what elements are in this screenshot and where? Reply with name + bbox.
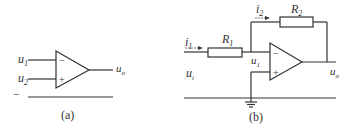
resistor-r1-label: R1 (221, 32, 233, 48)
ground-icon (245, 102, 257, 107)
panel-b: i1 R1 R2 i2 u1 − + (184, 2, 340, 124)
current-i1-label: i1 (185, 35, 192, 51)
opamp-b-plus-pin: + (273, 67, 279, 78)
panel-a: u1 u2 − + uo − (a) (13, 51, 126, 122)
current-i2-label: i2 (256, 2, 263, 18)
current-i2-arrow-icon (265, 16, 270, 20)
output-b-label: uo (330, 65, 340, 80)
input-u2-label: u2 (18, 71, 28, 87)
opamp-a-plus-pin: + (59, 74, 65, 85)
current-i1-arrow-icon (198, 46, 203, 50)
opamp-a-minus-pin: − (59, 55, 65, 66)
caption-a: (a) (61, 108, 74, 122)
input-u1-label: u1 (18, 52, 28, 68)
caption-b: (b) (249, 110, 263, 124)
input-ui-label: ui (186, 66, 194, 82)
circuit-diagram: u1 u2 − + uo − (a) i1 R1 R2 (0, 0, 353, 131)
node-u-minus-label: u1 (251, 54, 260, 69)
output-a-label: uo (116, 62, 126, 77)
ground-minus-mark: − (13, 88, 19, 100)
opamp-b-minus-pin: − (273, 48, 279, 59)
resistor-r2-icon (280, 17, 313, 27)
resistor-r1-icon (208, 48, 242, 57)
resistor-r2-label: R2 (290, 2, 302, 18)
